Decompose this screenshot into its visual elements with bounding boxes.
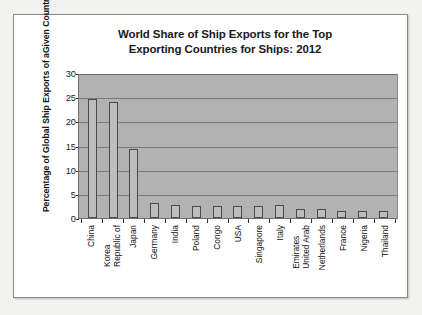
x-tick-mark (144, 219, 145, 223)
bar (275, 205, 284, 218)
bar (213, 206, 222, 218)
bar-slot (332, 75, 353, 218)
x-label-slot: Japan (123, 225, 144, 311)
x-tick-mark (311, 219, 312, 223)
bar (129, 149, 138, 218)
x-tick-label: Netherlands (317, 225, 327, 270)
x-tick-label-line: USA (233, 225, 243, 242)
bar-slot (144, 75, 165, 218)
x-tick-label: India (170, 225, 180, 243)
x-tick-mark (102, 219, 103, 223)
x-label-slot: Singapore (249, 225, 270, 311)
x-tick-label-line: China (86, 225, 96, 247)
bar (317, 209, 326, 218)
bar (358, 211, 367, 218)
y-tick-label: 15 (54, 142, 76, 151)
x-tick-label: Republic ofKorea (102, 225, 122, 267)
x-tick-mark (248, 219, 249, 223)
x-tick-label: China (86, 225, 96, 247)
x-tick-label-line: United Arab (301, 225, 311, 269)
x-label-slot: Congo (207, 225, 228, 311)
chart-title-line-1: World Share of Ship Exports for the Top (118, 28, 332, 40)
y-axis-ticks: 051015202530 (50, 74, 76, 219)
y-axis-title-line-2: Given Country (41, 0, 52, 53)
bar-slot (207, 75, 228, 218)
bar-slot (82, 75, 103, 218)
bar-slot (165, 75, 186, 218)
x-tick-label-line: Republic of (112, 225, 122, 267)
x-tick-label: United ArabEmirates (291, 225, 311, 269)
bar (337, 211, 346, 218)
x-tick-label-line: Nigeria (359, 225, 369, 252)
x-tick-mark (353, 219, 354, 223)
x-tick-mark (207, 219, 208, 223)
x-tick-mark (290, 219, 291, 223)
x-tick-label: Singapore (254, 225, 264, 263)
x-tick-label-line: Netherlands (317, 225, 327, 270)
bar (233, 206, 242, 218)
bar-slot (352, 75, 373, 218)
bar (109, 102, 118, 218)
x-tick-label: USA (233, 225, 243, 242)
x-tick-label: Congo (212, 225, 222, 250)
bar (254, 206, 263, 218)
x-tick-label-line: Italy (275, 225, 285, 240)
x-tick-label-line: Japan (128, 225, 138, 248)
x-tick-mark (123, 219, 124, 223)
y-tick-label: 30 (54, 70, 76, 79)
bar (88, 99, 97, 218)
x-label-slot: Poland (186, 225, 207, 311)
x-tick-label: France (338, 225, 348, 251)
x-label-slot: India (165, 225, 186, 311)
x-tick-mark (332, 219, 333, 223)
x-label-slot: China (81, 225, 102, 311)
x-tick-label-line: Congo (212, 225, 222, 250)
x-tick-label-line: Poland (191, 225, 201, 251)
bar-slot (311, 75, 332, 218)
bar (379, 211, 388, 218)
x-tick-mark (186, 219, 187, 223)
x-tick-label-line: France (338, 225, 348, 251)
bar-slot (373, 75, 394, 218)
x-tick-label-line: India (170, 225, 180, 243)
x-tick-label: Italy (275, 225, 285, 240)
y-tick-label: 5 (54, 190, 76, 199)
x-label-slot: France (332, 225, 353, 311)
x-tick-label: Poland (191, 225, 201, 251)
bar-series (79, 75, 397, 218)
bar (192, 206, 201, 218)
x-tick-mark (228, 219, 229, 223)
x-label-slot: United ArabEmirates (290, 225, 311, 311)
bar-slot (248, 75, 269, 218)
x-label-slot: Thailand (374, 225, 395, 311)
y-tick-label: 20 (54, 118, 76, 127)
x-axis-labels: ChinaRepublic ofKoreaJapanGermanyIndiaPo… (78, 225, 398, 311)
x-tick-label: Germany (149, 225, 159, 259)
chart-card: World Share of Ship Exports for the Top … (13, 14, 408, 298)
bar-slot (290, 75, 311, 218)
x-tick-label-line: Thailand (380, 225, 390, 257)
y-tick-label: 0 (54, 215, 76, 224)
x-label-slot: Republic ofKorea (102, 225, 123, 311)
y-tick-label: 10 (54, 166, 76, 175)
bar-slot (103, 75, 124, 218)
x-tick-mark (269, 219, 270, 223)
x-tick-mark (374, 219, 375, 223)
x-label-slot: Netherlands (311, 225, 332, 311)
x-label-slot: Germany (144, 225, 165, 311)
x-tick-mark (81, 219, 82, 223)
bar (150, 203, 159, 218)
plot-area (78, 74, 398, 219)
x-tick-label: Nigeria (359, 225, 369, 252)
bar-slot (269, 75, 290, 218)
bar (296, 209, 305, 218)
x-label-slot: Italy (269, 225, 290, 311)
chart-title-line-2: Exporting Countries for Ships: 2012 (60, 42, 390, 57)
x-label-slot: Nigeria (353, 225, 374, 311)
x-tick-mark (165, 219, 166, 223)
x-tick-label-line: Germany (149, 225, 159, 259)
x-tick-label: Thailand (380, 225, 390, 257)
bar-slot (124, 75, 145, 218)
x-tick-label: Japan (128, 225, 138, 248)
bar (171, 205, 180, 218)
